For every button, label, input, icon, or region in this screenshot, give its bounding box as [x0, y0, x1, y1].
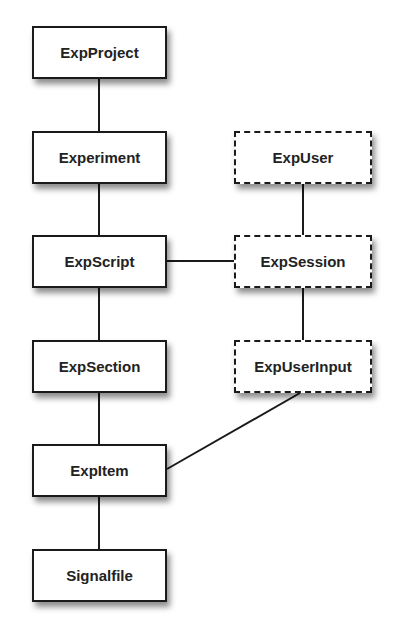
- node-experiment: Experiment: [32, 131, 167, 184]
- node-label: Signalfile: [66, 567, 133, 584]
- node-expsection: ExpSection: [32, 340, 167, 393]
- edge-expuserinput-expitem: [167, 393, 300, 469]
- node-label: Experiment: [59, 149, 141, 166]
- node-expitem: ExpItem: [32, 444, 167, 497]
- node-signalfile: Signalfile: [32, 549, 167, 602]
- node-expscript: ExpScript: [32, 235, 167, 288]
- node-expsession: ExpSession: [234, 235, 372, 288]
- node-label: ExpUser: [273, 149, 334, 166]
- node-expuser: ExpUser: [234, 131, 372, 184]
- node-label: ExpSection: [59, 358, 141, 375]
- node-expproject: ExpProject: [32, 26, 167, 79]
- diagram-connectors: [0, 0, 393, 643]
- node-label: ExpItem: [70, 462, 128, 479]
- node-label: ExpProject: [60, 44, 138, 61]
- node-label: ExpScript: [64, 253, 134, 270]
- node-label: ExpUserInput: [254, 358, 352, 375]
- node-expuserinput: ExpUserInput: [234, 340, 372, 393]
- node-label: ExpSession: [260, 253, 345, 270]
